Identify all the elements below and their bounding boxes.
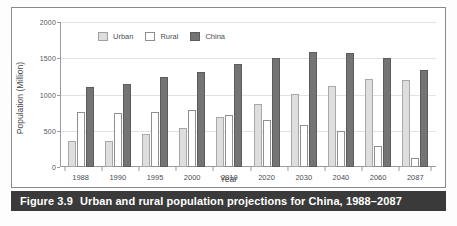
bar-china-2040 [346, 53, 354, 167]
bar-group [179, 22, 205, 167]
bar-rural-1995 [151, 112, 159, 167]
bar-rural-1988 [77, 112, 85, 167]
bar-urban-1988 [68, 141, 76, 167]
bar-group [142, 22, 168, 167]
caption-number: Figure 3.9 [20, 195, 73, 207]
bar-urban-2010 [216, 117, 224, 167]
bar-rural-2000 [188, 110, 196, 167]
y-tick-label: 1500 [40, 55, 56, 62]
bar-china-2060 [383, 58, 391, 167]
bar-china-2010 [234, 64, 242, 167]
bar-urban-2040 [328, 86, 336, 167]
y-tick-mark [57, 131, 60, 132]
bar-group [291, 22, 317, 167]
bar-group [328, 22, 354, 167]
bar-rural-1990 [114, 113, 122, 167]
bar-rural-2060 [374, 146, 382, 167]
bar-china-1990 [123, 84, 131, 167]
bar-group [68, 22, 94, 167]
bar-rural-2040 [337, 131, 345, 167]
bar-china-2030 [309, 52, 317, 167]
bar-urban-1995 [142, 134, 150, 167]
y-tick-label: 2000 [40, 19, 56, 26]
legend-item-rural: Rural [145, 32, 178, 41]
bar-rural-2010 [225, 115, 233, 167]
bar-rural-2030 [300, 125, 308, 167]
y-tick-label: 0 [52, 164, 56, 171]
figure-container: Population (Million) 0500100015002000 19… [0, 0, 457, 226]
legend-label: China [205, 32, 225, 41]
bar-rural-2087 [411, 158, 419, 167]
y-tick-label: 500 [44, 127, 56, 134]
x-tick-mark [431, 167, 432, 171]
x-tick-mark [64, 167, 65, 171]
x-tick-mark [399, 167, 400, 171]
bar-urban-2087 [402, 80, 410, 167]
x-tick-mark [101, 167, 102, 171]
x-tick-mark [324, 167, 325, 171]
bar-china-1988 [86, 87, 94, 167]
bar-group [216, 22, 242, 167]
bar-urban-1990 [105, 141, 113, 167]
x-tick-mark [362, 167, 363, 171]
bar-china-2000 [197, 72, 205, 167]
bar-urban-2030 [291, 94, 299, 167]
bar-urban-2060 [365, 79, 373, 167]
bar-group [365, 22, 391, 167]
bar-china-2087 [420, 70, 428, 167]
y-axis-title: Population (Million) [15, 61, 25, 133]
legend-swatch-china [190, 32, 200, 41]
legend-label: Rural [160, 32, 178, 41]
figure-caption: Figure 3.9 Urban and rural population pr… [11, 191, 446, 211]
bar-group [402, 22, 428, 167]
legend-swatch-rural [145, 32, 155, 41]
x-tick-mark [176, 167, 177, 171]
bar-china-1995 [160, 77, 168, 167]
legend-swatch-urban [98, 32, 108, 41]
plot-area: 0500100015002000 [60, 22, 436, 167]
y-tick-mark [57, 22, 60, 23]
bar-china-2020 [272, 58, 280, 167]
x-axis-title: Year [12, 174, 445, 184]
x-tick-mark [287, 167, 288, 171]
legend-item-urban: Urban [98, 32, 133, 41]
bar-rural-2020 [263, 120, 271, 167]
x-tick-mark [138, 167, 139, 171]
bar-group [254, 22, 280, 167]
x-tick-mark [250, 167, 251, 171]
y-tick-mark [57, 58, 60, 59]
bar-group [105, 22, 131, 167]
legend-item-china: China [190, 32, 225, 41]
x-tick-mark [213, 167, 214, 171]
bar-urban-2020 [254, 104, 262, 167]
caption-text: Urban and rural population projections f… [80, 195, 402, 207]
chart-legend: UrbanRuralChina [98, 32, 225, 41]
chart-panel: Population (Million) 0500100015002000 19… [11, 7, 446, 188]
bar-urban-2000 [179, 128, 187, 167]
bar-groups [60, 22, 436, 167]
y-tick-label: 1000 [40, 91, 56, 98]
y-tick-mark [57, 95, 60, 96]
legend-label: Urban [113, 32, 133, 41]
